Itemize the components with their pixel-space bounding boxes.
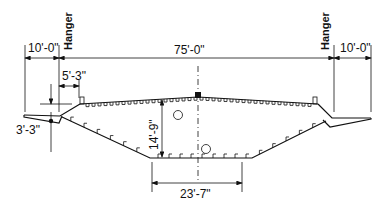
web-tick [71, 117, 74, 121]
edge-offset-label: 5'-3" [62, 69, 86, 83]
diagram-canvas: 10'-0" 75'-0" 10'-0" Hanger Hanger 5'-3"… [0, 0, 388, 206]
web-tick [84, 123, 87, 127]
bottom-width-label: 23'-7" [180, 187, 211, 201]
left-hanger-label: Hanger [62, 11, 74, 50]
cross-section-diagram: 10'-0" 75'-0" 10'-0" Hanger Hanger 5'-3"… [0, 0, 388, 206]
right-barrier [313, 97, 317, 104]
duct-upper [174, 111, 183, 120]
right-wing-bottom [323, 118, 371, 127]
right-overhang-label: 10'-0" [340, 41, 371, 55]
right-hanger-label: Hanger [319, 11, 331, 50]
web-ticks [71, 117, 316, 158]
web-tick [110, 136, 113, 140]
duct-lower [202, 145, 211, 154]
right-wing-top [318, 104, 371, 118]
left-barrier [80, 97, 84, 104]
web-tick [124, 142, 127, 146]
left-wing-top [24, 104, 80, 116]
main-span-label: 75'-0" [174, 43, 205, 57]
left-overhang-label: 10'-0" [28, 41, 59, 55]
web-tick [97, 129, 100, 133]
box-depth-label: 14'-9" [147, 119, 161, 150]
web-tick [137, 148, 140, 152]
wing-depth-label: 3'-3" [16, 123, 40, 137]
